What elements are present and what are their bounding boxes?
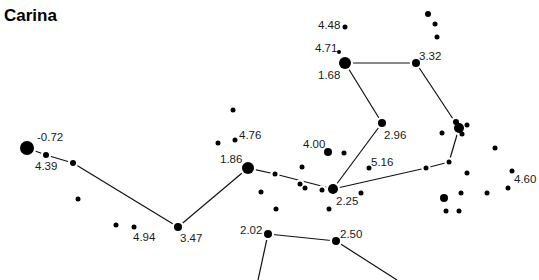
star-magnitude-label: 2.25 xyxy=(336,195,358,207)
constellation-line xyxy=(178,168,248,227)
star-magnitude-label: 2.02 xyxy=(240,224,262,236)
star-point xyxy=(320,188,325,193)
star-point xyxy=(378,119,386,127)
star-magnitude-label: 4.00 xyxy=(303,138,325,150)
star-point xyxy=(425,11,431,17)
star-point xyxy=(43,152,49,158)
star-point xyxy=(70,160,76,166)
star-magnitude-label: 4.71 xyxy=(315,42,337,54)
star-point xyxy=(233,138,238,143)
star-magnitude-label: 2.96 xyxy=(384,129,406,141)
constellation-line xyxy=(268,234,336,241)
star-magnitude-label: 2.50 xyxy=(340,228,362,240)
star-point xyxy=(493,146,498,151)
star-magnitude-label: 1.68 xyxy=(318,69,340,81)
star-point xyxy=(327,207,332,212)
star-point xyxy=(132,225,137,230)
star-point xyxy=(485,191,490,196)
star-point xyxy=(444,209,449,214)
star-point xyxy=(435,35,440,40)
star-magnitude-label: 4.60 xyxy=(514,173,536,185)
star-point xyxy=(274,207,279,212)
star-magnitude-label: 3.47 xyxy=(180,232,202,244)
star-point xyxy=(433,22,438,27)
star-point xyxy=(328,184,338,194)
star-magnitude-label: 4.76 xyxy=(239,129,261,141)
star-magnitude-label: 3.32 xyxy=(419,50,441,62)
star-point xyxy=(216,141,221,146)
star-point xyxy=(273,172,278,177)
star-point xyxy=(465,123,470,128)
star-point xyxy=(424,166,429,171)
star-point xyxy=(359,191,364,196)
star-point xyxy=(343,25,348,30)
star-point xyxy=(337,50,341,54)
constellation-line xyxy=(336,241,397,280)
star-point xyxy=(332,237,340,245)
star-point xyxy=(174,223,182,231)
star-magnitude-label: 4.39 xyxy=(35,160,57,172)
constellation-line xyxy=(258,234,268,280)
star-magnitude-label: 4.48 xyxy=(318,19,340,31)
star-point xyxy=(457,209,462,214)
constellation-diagram: -0.724.394.943.471.864.764.002.255.162.9… xyxy=(0,0,539,280)
star-point xyxy=(20,141,34,155)
star-magnitude-label: -0.72 xyxy=(37,131,63,143)
star-point xyxy=(76,197,81,202)
star-point xyxy=(459,191,464,196)
constellation-line xyxy=(345,63,382,123)
star-point xyxy=(447,160,452,165)
star-point xyxy=(114,223,119,228)
star-point xyxy=(339,57,351,69)
star-points xyxy=(18,9,517,247)
star-point xyxy=(259,190,264,195)
star-point xyxy=(440,131,445,136)
star-point xyxy=(440,194,448,202)
star-point xyxy=(342,151,347,156)
star-point xyxy=(303,186,308,191)
star-magnitude-label: 1.86 xyxy=(220,153,242,165)
star-point xyxy=(242,162,254,174)
star-point xyxy=(465,171,470,176)
star-point xyxy=(300,165,305,170)
star-magnitude-label: 5.16 xyxy=(371,156,393,168)
star-point xyxy=(460,132,465,137)
star-point xyxy=(264,230,272,238)
star-point xyxy=(231,108,236,113)
star-point xyxy=(506,186,511,191)
star-magnitude-label: 4.94 xyxy=(133,231,156,243)
star-point xyxy=(453,119,459,125)
constellation-line xyxy=(73,163,178,227)
star-point xyxy=(298,182,303,187)
